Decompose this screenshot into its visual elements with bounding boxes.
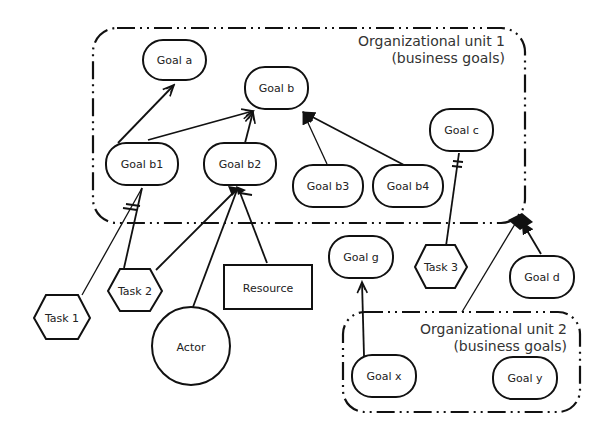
task-1-label: Task 1 bbox=[44, 312, 79, 325]
edge-b3-to-b bbox=[303, 112, 327, 164]
goal-x-label: Goal x bbox=[366, 370, 402, 383]
edge-b2-to-b bbox=[245, 112, 253, 143]
goal-model-diagram: Organizational unit 1 (business goals) O… bbox=[0, 0, 608, 435]
goal-g-label: Goal g bbox=[343, 251, 379, 264]
goal-x[interactable]: Goal x bbox=[352, 355, 416, 397]
actor-label: Actor bbox=[177, 341, 206, 354]
goal-g[interactable]: Goal g bbox=[329, 236, 393, 278]
edge-task1-to-b1-tick2 bbox=[123, 208, 137, 210]
edge-task2-to-b1 bbox=[124, 188, 142, 268]
goal-b3[interactable]: Goal b3 bbox=[293, 165, 363, 207]
edge-b4-to-b bbox=[303, 112, 404, 165]
goal-y-label: Goal y bbox=[507, 372, 543, 385]
goal-c[interactable]: Goal c bbox=[430, 109, 493, 151]
goal-b[interactable]: Goal b bbox=[245, 67, 308, 109]
edge-task3-to-c-tick2 bbox=[452, 166, 462, 167]
task-1[interactable]: Task 1 bbox=[34, 295, 90, 339]
resource[interactable]: Resource bbox=[224, 265, 312, 309]
task-3-label: Task 3 bbox=[423, 261, 458, 274]
edge-b1-to-b bbox=[148, 111, 253, 140]
resource-label: Resource bbox=[243, 282, 294, 295]
goal-b4[interactable]: Goal b4 bbox=[373, 165, 443, 207]
edge-x-to-g bbox=[362, 282, 364, 356]
org-unit-1-subtitle: (business goals) bbox=[391, 50, 505, 66]
goal-y[interactable]: Goal y bbox=[493, 357, 557, 399]
goal-a-label: Goal a bbox=[157, 54, 192, 67]
goal-b2-label: Goal b2 bbox=[219, 158, 262, 171]
goal-b1-label: Goal b1 bbox=[121, 158, 164, 171]
org-unit-2-subtitle: (business goals) bbox=[453, 338, 567, 354]
edge-task2-to-b2 bbox=[156, 190, 236, 270]
goal-b1[interactable]: Goal b1 bbox=[106, 143, 178, 185]
goal-b4-label: Goal b4 bbox=[387, 180, 430, 193]
edge-task3-to-c-tick1 bbox=[453, 161, 463, 162]
actor[interactable]: Actor bbox=[152, 307, 230, 385]
goal-b2[interactable]: Goal b2 bbox=[204, 143, 276, 185]
org-unit-2-title: Organizational unit 2 bbox=[420, 321, 567, 337]
goal-d[interactable]: Goal d bbox=[510, 256, 574, 298]
edge-resource-to-b2 bbox=[239, 190, 267, 263]
goal-c-label: Goal c bbox=[444, 124, 479, 137]
task-2[interactable]: Task 2 bbox=[108, 269, 162, 311]
goal-d-label: Goal d bbox=[524, 271, 560, 284]
edge-unit2-to-unit1 bbox=[462, 224, 515, 312]
edge-b2-tick bbox=[240, 193, 252, 195]
task-3[interactable]: Task 3 bbox=[415, 245, 467, 288]
goal-a[interactable]: Goal a bbox=[143, 40, 206, 80]
task-2-label: Task 2 bbox=[117, 285, 152, 298]
unit1-corner-arrowhead bbox=[508, 213, 533, 230]
goal-b3-label: Goal b3 bbox=[307, 180, 350, 193]
org-unit-1-title: Organizational unit 1 bbox=[358, 33, 505, 49]
goal-b-label: Goal b bbox=[259, 82, 295, 95]
